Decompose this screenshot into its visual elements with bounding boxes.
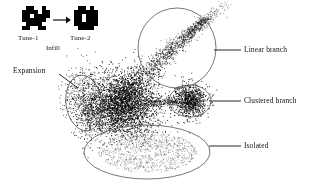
annotation-label-clustered-branch: Clustered branch xyxy=(244,96,297,105)
tune-2-label: Tune-2 xyxy=(70,34,91,42)
annotation-label-linear-branch: Linear branch xyxy=(244,45,287,54)
annotation-label-isolated: Isolated xyxy=(244,141,269,150)
scatter-annotation-figure: Tune-1 Tune-2 Infill Expansion Linear br… xyxy=(0,0,321,192)
annotation-label-expansion: Expansion xyxy=(13,66,46,75)
tune-1-label: Tune-1 xyxy=(18,34,39,42)
tune-1-sprite xyxy=(22,4,50,32)
tune-sprite-legend: Tune-1 Tune-2 Infill xyxy=(18,4,128,54)
arrow-right-icon xyxy=(52,14,72,26)
infill-caption: Infill xyxy=(46,44,60,52)
tune-2-sprite xyxy=(74,4,102,32)
